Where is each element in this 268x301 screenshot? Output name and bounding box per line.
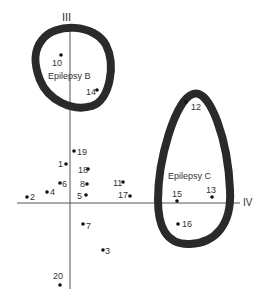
point-6: 6 — [58, 179, 67, 189]
svg-text:19: 19 — [77, 147, 87, 157]
point-14: 14 — [86, 87, 99, 97]
svg-text:17: 17 — [118, 190, 128, 200]
svg-text:18: 18 — [78, 165, 88, 175]
point-10: 10 — [52, 53, 63, 68]
point-1: 1 — [58, 159, 68, 169]
svg-text:20: 20 — [53, 271, 63, 281]
svg-text:10: 10 — [52, 58, 62, 68]
point-20: 20 — [53, 271, 63, 287]
cluster-label-epilepsy-b: Epilepsy B — [48, 71, 91, 81]
point-11: 11 — [113, 178, 125, 188]
cluster-label-epilepsy-c: Epilepsy C — [168, 171, 212, 181]
point-3: 3 — [101, 246, 110, 256]
svg-text:5: 5 — [77, 191, 82, 201]
cluster-diagram: III IV Epilepsy B Epilepsy C 1 2 3 4 5 6… — [0, 0, 268, 301]
point-13: 13 — [206, 185, 216, 199]
svg-text:14: 14 — [86, 87, 96, 97]
svg-text:15: 15 — [172, 189, 182, 199]
svg-text:8: 8 — [80, 179, 85, 189]
point-5: 5 — [77, 191, 88, 201]
point-19: 19 — [72, 147, 87, 157]
point-4: 4 — [45, 187, 55, 197]
point-12: 12 — [184, 100, 201, 112]
svg-text:12: 12 — [191, 102, 201, 112]
point-7: 7 — [81, 221, 91, 231]
point-2: 2 — [25, 192, 35, 202]
svg-text:16: 16 — [182, 219, 192, 229]
point-18: 18 — [78, 165, 90, 175]
axis-label-iii: III — [62, 11, 71, 23]
svg-text:3: 3 — [105, 246, 110, 256]
point-17: 17 — [118, 190, 132, 200]
cluster-outline-epilepsy-c — [158, 94, 230, 245]
point-8: 8 — [80, 179, 89, 189]
point-15: 15 — [172, 189, 182, 203]
point-16: 16 — [176, 219, 192, 229]
svg-text:7: 7 — [86, 221, 91, 231]
svg-text:4: 4 — [50, 187, 55, 197]
axis-label-iv: IV — [243, 197, 253, 208]
svg-text:2: 2 — [30, 192, 35, 202]
cluster-outline-epilepsy-b — [35, 28, 110, 108]
svg-text:1: 1 — [58, 159, 63, 169]
svg-text:13: 13 — [206, 185, 216, 195]
svg-text:6: 6 — [62, 179, 67, 189]
svg-text:11: 11 — [113, 178, 122, 188]
